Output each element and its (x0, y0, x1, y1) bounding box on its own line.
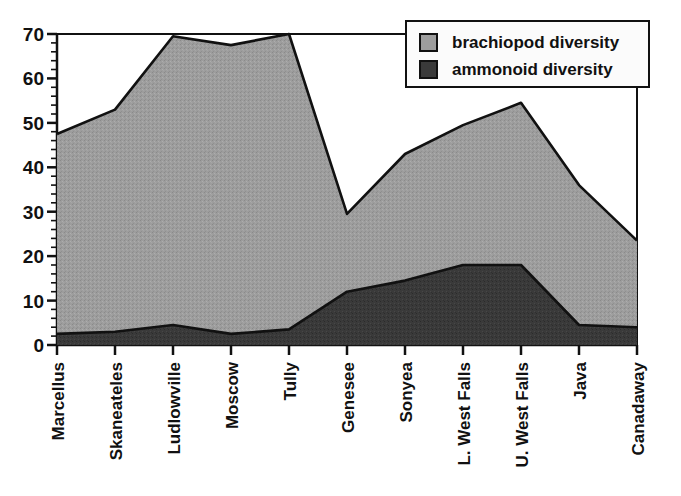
y-tick-labels: 70 60 50 40 30 20 10 0 (23, 24, 44, 356)
x-tick-label-u-west-falls: U. West Falls (513, 362, 532, 468)
x-tick-label-skaneateles: Skaneateles (107, 362, 126, 460)
x-tick-label-marcellus: Marcellus (49, 362, 68, 440)
x-tick-label-l-west-falls: L. West Falls (455, 362, 474, 466)
y-tick-label: 50 (23, 113, 44, 134)
x-tick-label-canadaway: Canadaway (629, 361, 648, 455)
x-tick-label-ludlowville: Ludlowville (165, 362, 184, 455)
legend-item-ammonoid: ammonoid diversity (419, 56, 648, 83)
x-tick-label-sonyea: Sonyea (397, 361, 416, 422)
legend-label-brachiopod: brachiopod diversity (452, 34, 619, 51)
x-tick-labels: Marcellus Skaneateles Ludlowville Moscow… (49, 361, 648, 467)
y-tick-label: 30 (23, 202, 44, 223)
stacked-area-chart: 70 60 50 40 30 20 10 0 Marcellus Skaneat… (0, 0, 681, 496)
x-tick-label-moscow: Moscow (223, 361, 242, 429)
legend-item-brachiopod: brachiopod diversity (419, 29, 648, 56)
y-tick-label: 0 (33, 335, 44, 356)
x-tick-label-java: Java (571, 361, 590, 399)
y-axis-major-ticks (47, 34, 57, 345)
y-tick-label: 40 (23, 157, 44, 178)
chart-legend: brachiopod diversity ammonoid diversity (405, 20, 650, 88)
x-axis-ticks (57, 345, 637, 355)
y-tick-label: 60 (23, 68, 44, 89)
x-tick-label-tully: Tully (281, 361, 300, 400)
legend-swatch-brachiopod-icon (419, 33, 438, 52)
legend-swatch-ammonoid-icon (419, 60, 438, 79)
y-tick-label: 20 (23, 246, 44, 267)
legend-label-ammonoid: ammonoid diversity (452, 61, 613, 78)
y-tick-label: 70 (23, 24, 44, 45)
x-tick-label-genesee: Genesee (339, 362, 358, 433)
y-tick-label: 10 (23, 291, 44, 312)
